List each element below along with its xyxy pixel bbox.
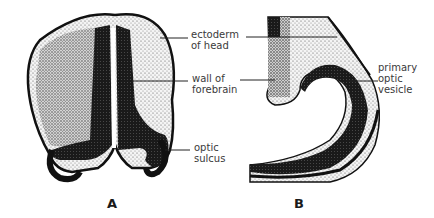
panel-letter-a: A bbox=[107, 196, 117, 211]
panel-b-section bbox=[250, 17, 379, 182]
panel-letter-b: B bbox=[294, 196, 304, 211]
label-wall-of-forebrain: wall of forebrain bbox=[192, 73, 237, 95]
label-primary-optic-vesicle: primary optic vesicle bbox=[378, 62, 417, 95]
label-optic-sulcus: optic sulcus bbox=[194, 142, 225, 164]
label-ectoderm-of-head: ectoderm of head bbox=[191, 29, 239, 51]
panel-a-section bbox=[28, 14, 174, 179]
